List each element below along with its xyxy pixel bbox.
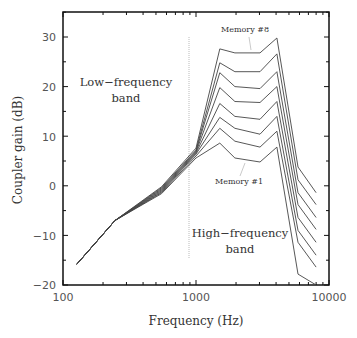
high-band-label: High−frequency <box>192 226 289 240</box>
y-tick-label: 20 <box>42 81 56 94</box>
coupler-gain-chart: 30 20 10 0 −10 −20 100 1000 10000 Freque… <box>0 0 357 338</box>
x-tick-label: 100 <box>53 291 74 304</box>
y-tick-label: 30 <box>42 31 56 44</box>
series-line <box>77 143 316 285</box>
x-tick-label: 10000 <box>312 291 347 304</box>
low-band-label: Low−frequency <box>80 75 173 89</box>
x-axis-label: Frequency (Hz) <box>149 314 244 328</box>
memory-1-label: Memory #1 <box>215 177 263 186</box>
memory-1-leader <box>240 163 245 176</box>
y-tick-label: 10 <box>42 131 56 144</box>
low-band-label: band <box>112 91 142 105</box>
y-axis-label: Coupler gain (dB) <box>11 96 25 204</box>
x-tick-label: 1000 <box>182 291 210 304</box>
y-tick-label: 0 <box>49 180 56 193</box>
memory-8-leader <box>249 37 251 50</box>
memory-8-label: Memory #8 <box>221 25 269 34</box>
high-band-label: band <box>226 242 256 256</box>
y-tick-label: −10 <box>33 230 56 243</box>
series-line <box>77 116 316 264</box>
